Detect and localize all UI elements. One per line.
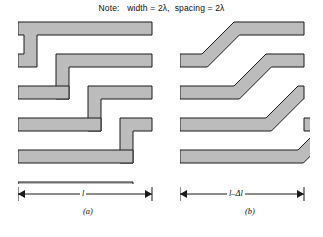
dimension-line-b bbox=[180, 186, 310, 202]
dimension-arrow-right bbox=[145, 190, 152, 198]
dimension-arrow-left bbox=[180, 190, 187, 198]
panel-b-traces bbox=[180, 22, 310, 163]
trace-stub-square bbox=[18, 150, 133, 163]
trace-bottom-square bbox=[18, 182, 133, 184]
meander-pattern-square-bends bbox=[18, 18, 158, 184]
dimension-label-b: l–Δl bbox=[227, 188, 245, 198]
figure-root: Note: width = 2λ, spacing = 2λ l l–Δl (a… bbox=[0, 0, 323, 237]
panel-a-traces bbox=[18, 22, 152, 184]
panel-caption-a: (a) bbox=[58, 206, 118, 216]
dimension-arrow-left bbox=[18, 190, 25, 198]
figure-note: Note: width = 2λ, spacing = 2λ bbox=[0, 3, 323, 13]
panel-caption-b: (b) bbox=[220, 206, 280, 216]
meander-pattern-mitered-bends bbox=[180, 18, 310, 184]
trace-stub-square bbox=[18, 118, 101, 131]
dimension-arrow-right bbox=[297, 190, 304, 198]
dimension-label-a: l bbox=[80, 188, 86, 198]
trace-stub-square bbox=[18, 86, 69, 99]
dimension-line-a bbox=[18, 186, 158, 202]
